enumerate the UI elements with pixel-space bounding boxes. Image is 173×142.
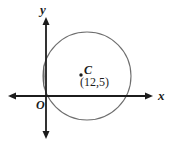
y-axis-top-arrow-icon xyxy=(43,17,50,25)
y-axis-label: y xyxy=(40,3,46,16)
origin-label: O xyxy=(36,99,45,111)
circle-center-coordinates: (12,5) xyxy=(80,76,109,88)
x-axis-label: x xyxy=(158,89,165,102)
x-axis xyxy=(8,93,153,100)
x-axis-left-arrow-icon xyxy=(8,93,16,100)
geometry-figure: y x O C (12,5) xyxy=(0,0,173,142)
y-axis-bottom-arrow-icon xyxy=(43,131,50,139)
x-axis-right-arrow-icon xyxy=(145,93,153,100)
